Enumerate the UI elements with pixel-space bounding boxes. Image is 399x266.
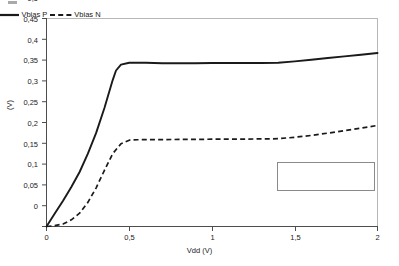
legend-entries: Vbias P Vbias N	[0, 0, 98, 29]
legend-swatch-solid	[0, 11, 19, 19]
legend-swatch-dashed	[50, 11, 72, 19]
y-tick-label: 0,05	[8, 182, 38, 190]
x-tick-label: 1	[193, 234, 233, 242]
legend-item-vbias-n: Vbias N	[50, 11, 100, 19]
y-tick-label: 0,4	[8, 37, 38, 45]
y-tick-label: 0,35	[8, 57, 38, 65]
y-tick-label: 0,3	[8, 78, 38, 86]
legend	[277, 162, 375, 191]
legend-item-vbias-p: Vbias P	[0, 11, 47, 19]
plot-frame	[46, 18, 378, 227]
x-tick-label: 0	[27, 234, 67, 242]
plot-canvas	[0, 0, 399, 266]
x-tick-label: 0,5	[110, 234, 150, 242]
y-tick-label: 0	[8, 203, 38, 211]
series-layer	[47, 53, 378, 226]
legend-label: Vbias P	[21, 11, 47, 19]
x-axis-title: Vdd (V)	[0, 247, 399, 255]
x-tick-label: 2	[358, 234, 398, 242]
x-tick-label: 1,5	[276, 234, 316, 242]
y-tick-label: 0,15	[8, 141, 38, 149]
legend-label: Vbias N	[74, 11, 100, 19]
x-axis-title-text: Vdd (V)	[187, 246, 212, 255]
y-axis-ticks	[42, 19, 46, 227]
y-tick-label: 0,1	[8, 161, 38, 169]
y-axis-title-text: (V)	[6, 93, 14, 117]
y-tick-label: 0,2	[8, 120, 38, 128]
chart-figure: 0 0,05 0,1 0,15 0,2 0,25 0,3 0,35 0,4 0,…	[0, 0, 399, 266]
x-axis-ticks	[47, 227, 378, 232]
